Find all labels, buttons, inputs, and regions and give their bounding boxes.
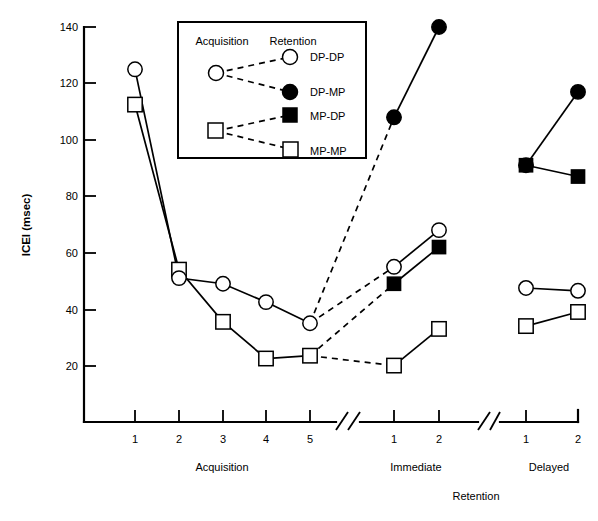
immediate-marker-dp-mp-1 xyxy=(387,110,401,124)
y-tick-label-40: 40 xyxy=(66,304,78,316)
legend-label-mp-mp: MP-MP xyxy=(310,145,347,157)
acquisition-marker-square-3 xyxy=(216,315,230,329)
y-tick-label-80: 80 xyxy=(66,190,78,202)
immediate-marker-mp-dp-2 xyxy=(432,240,445,253)
x-tick-label-acq-5: 5 xyxy=(307,433,313,445)
acquisition-marker-square-1 xyxy=(128,97,142,111)
x-axis-title: Retention xyxy=(452,490,499,502)
acquisition-marker-circle-2 xyxy=(172,271,186,285)
delayed-marker-mp-dp-1 xyxy=(519,159,532,172)
legend-acq-open-square-marker xyxy=(208,123,223,138)
legend-label-mp-dp: MP-DP xyxy=(310,110,345,122)
connector-acq-to-immediate-mp-dp xyxy=(310,284,394,356)
acquisition-marker-circle-1 xyxy=(128,62,142,76)
immediate-marker-mp-mp-2 xyxy=(432,322,446,336)
y-tick-label-120: 120 xyxy=(60,77,78,89)
immediate-marker-dp-dp-1 xyxy=(387,260,401,274)
y-tick-label-140: 140 xyxy=(60,21,78,33)
immediate-marker-mp-dp-1 xyxy=(387,277,400,290)
axis-break-2 xyxy=(478,412,500,430)
immediate-marker-mp-mp-1 xyxy=(387,358,401,372)
delayed-marker-mp-mp-2 xyxy=(571,305,585,319)
y-ticks xyxy=(84,27,96,366)
legend-header-retention: Retention xyxy=(269,35,316,47)
delayed-marker-mp-dp-2 xyxy=(571,170,584,183)
line-chart-svg: 140 120 100 80 60 40 20 ICEI (msec) 1 2 … xyxy=(0,0,598,521)
x-tick-label-acq-2: 2 xyxy=(176,433,182,445)
x-tick-label-del-2: 2 xyxy=(575,433,581,445)
acquisition-marker-circle-5 xyxy=(303,316,317,330)
delayed-marker-dp-mp-2 xyxy=(571,85,585,99)
x-tick-label-acq-4: 4 xyxy=(263,433,269,445)
legend-marker-mp-dp xyxy=(283,108,297,122)
delayed-marker-dp-dp-1 xyxy=(519,281,533,295)
delayed-line-dp-mp xyxy=(526,92,578,165)
connector-acq-to-immediate-mp-mp xyxy=(310,356,394,366)
x-tick-label-acq-1: 1 xyxy=(132,433,138,445)
x-tick-label-imm-1: 1 xyxy=(391,433,397,445)
legend-marker-dp-dp xyxy=(283,50,298,65)
x-tick-label-acq-3: 3 xyxy=(220,433,226,445)
y-tick-label-100: 100 xyxy=(60,134,78,146)
group-label-immediate: Immediate xyxy=(390,461,441,473)
y-axis-title: ICEI (msec) xyxy=(20,194,32,257)
legend-label-dp-mp: DP-MP xyxy=(310,86,345,98)
x-tick-label-del-1: 1 xyxy=(523,433,529,445)
y-tick-label-60: 60 xyxy=(66,247,78,259)
delayed-marker-mp-mp-1 xyxy=(519,319,533,333)
acquisition-marker-circle-4 xyxy=(259,295,273,309)
legend-header-acquisition: Acquisition xyxy=(195,35,248,47)
legend-label-dp-dp: DP-DP xyxy=(310,51,344,63)
x-tick-label-imm-2: 2 xyxy=(436,433,442,445)
group-label-acquisition: Acquisition xyxy=(195,461,248,473)
y-tick-label-20: 20 xyxy=(66,360,78,372)
acquisition-marker-square-4 xyxy=(259,351,273,365)
axis-break-1 xyxy=(336,412,360,430)
immediate-marker-dp-dp-2 xyxy=(432,223,446,237)
legend-acq-open-circle-marker xyxy=(209,66,224,81)
x-ticks-immediate xyxy=(394,410,439,422)
chart-figure: 140 120 100 80 60 40 20 ICEI (msec) 1 2 … xyxy=(0,0,598,521)
legend: Acquisition Retention DP-DP DP-MP MP-DP xyxy=(178,22,366,158)
acquisition-marker-circle-3 xyxy=(216,277,230,291)
immediate-marker-dp-mp-2 xyxy=(432,20,446,34)
legend-marker-dp-mp xyxy=(283,85,298,100)
group-label-delayed: Delayed xyxy=(529,461,569,473)
x-ticks-acquisition xyxy=(135,410,310,422)
delayed-marker-dp-dp-2 xyxy=(571,284,585,298)
immediate-line-dp-mp xyxy=(394,27,439,117)
delayed-line-mp-dp xyxy=(526,165,578,176)
acquisition-marker-square-5 xyxy=(303,348,317,362)
legend-marker-mp-mp xyxy=(283,142,298,157)
